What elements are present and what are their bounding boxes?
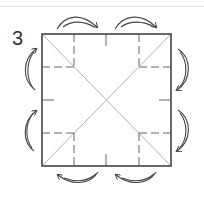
- diagonal-creases: [42, 34, 171, 166]
- fold-diagram: [0, 0, 204, 201]
- arrow-top-left: [57, 17, 97, 29]
- arrow-top-right: [115, 17, 156, 29]
